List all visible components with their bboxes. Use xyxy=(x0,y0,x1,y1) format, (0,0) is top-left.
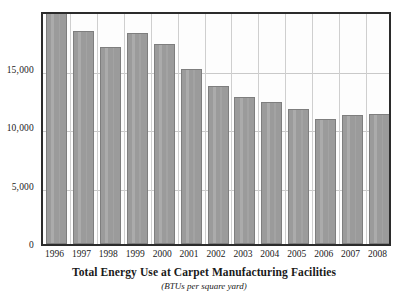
bar-2006 xyxy=(315,119,336,244)
bar-highlight-secondary xyxy=(328,120,330,243)
y-axis-tick-label: 5,000 xyxy=(0,182,34,192)
bar-2004 xyxy=(261,102,282,244)
bar-2003 xyxy=(234,97,255,244)
bar-highlight-secondary xyxy=(139,34,141,243)
bar-2001 xyxy=(181,69,202,245)
y-axis-tick-label: 10,000 xyxy=(0,123,34,133)
plot-area xyxy=(41,12,391,246)
bar-highlight-secondary xyxy=(274,103,276,243)
x-axis-tick-label-2008: 2008 xyxy=(361,249,395,259)
bar-highlight xyxy=(186,70,189,244)
bar-2005 xyxy=(288,109,309,244)
bar-highlight xyxy=(132,34,135,243)
bar-highlight-secondary xyxy=(193,70,195,244)
bar-1996 xyxy=(46,12,67,244)
bar-highlight-secondary xyxy=(166,45,168,243)
bar-highlight xyxy=(293,110,296,243)
bar-highlight-secondary xyxy=(59,13,61,243)
bar-highlight xyxy=(320,120,323,243)
bar-highlight xyxy=(240,98,243,243)
bar-highlight-secondary xyxy=(220,87,222,243)
bar-highlight-secondary xyxy=(113,48,115,243)
bar-highlight-secondary xyxy=(355,116,357,243)
bar-highlight xyxy=(105,48,108,243)
bar-highlight-secondary xyxy=(301,110,303,243)
y-axis-tick-label: 0 xyxy=(0,240,34,250)
bar-highlight xyxy=(213,87,216,243)
bar-1999 xyxy=(127,33,148,244)
bar-highlight-secondary xyxy=(247,98,249,243)
chart-subtitle: (BTUs per square yard) xyxy=(0,280,408,292)
bar-highlight xyxy=(159,45,162,243)
bar-highlight xyxy=(78,32,81,243)
chart-title: Total Energy Use at Carpet Manufacturing… xyxy=(0,266,408,279)
bar-2008 xyxy=(369,114,390,244)
bar-2000 xyxy=(154,44,175,244)
chart-caption: Total Energy Use at Carpet Manufacturing… xyxy=(0,266,408,292)
y-axis-tick-label: 15,000 xyxy=(0,65,34,75)
bar-series xyxy=(43,14,389,244)
bar-1997 xyxy=(73,31,94,244)
bar-2007 xyxy=(342,115,363,244)
bar-highlight-secondary xyxy=(86,32,88,243)
chart-figure: 05,00010,00015,000 199619971998199920002… xyxy=(0,0,408,297)
bar-highlight xyxy=(51,13,54,243)
bar-highlight-secondary xyxy=(382,115,384,243)
bar-highlight xyxy=(374,115,377,243)
bar-highlight xyxy=(347,116,350,243)
bar-1998 xyxy=(100,47,121,244)
bar-2002 xyxy=(208,86,229,244)
bar-highlight xyxy=(267,103,270,243)
